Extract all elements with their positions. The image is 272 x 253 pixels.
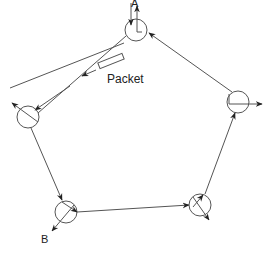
link-b-to-bottom-right <box>77 205 189 212</box>
node-bottom-right <box>189 194 211 216</box>
left-through-arrow <box>12 103 38 122</box>
link-a-to-left-head <box>35 86 70 110</box>
br-internal-arrow <box>193 195 203 207</box>
node-a-label: A <box>131 0 138 9</box>
packet-box <box>98 53 124 68</box>
token-ring-diagram <box>0 0 272 253</box>
packet-label: Packet <box>107 72 144 86</box>
link-bottom-right-to-right <box>205 113 235 194</box>
link-left-to-b <box>31 128 62 200</box>
node-a <box>125 19 147 41</box>
node-b-label: B <box>41 233 48 245</box>
node-right <box>227 91 249 113</box>
link-right-to-a <box>149 33 232 92</box>
br-through-arrow <box>193 197 209 220</box>
